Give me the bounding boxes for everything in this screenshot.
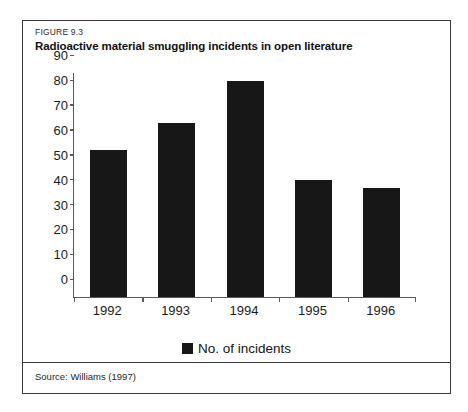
- x-axis-label-1996: 1996: [347, 303, 415, 318]
- x-axis-labels: 1992 1993 1994 1995 1996: [73, 303, 415, 318]
- figure-number-label: FIGURE 9.3: [35, 27, 442, 38]
- bar-slot-1995: [279, 73, 347, 297]
- y-axis-tick-label: 0: [44, 272, 68, 287]
- y-axis-tick-80: 80: [44, 71, 74, 89]
- bars-layer: [74, 73, 416, 297]
- y-axis-tick-label: 90: [44, 48, 68, 63]
- bar-chart: 90 80 70 60 50 40 30 20: [23, 63, 450, 353]
- y-axis-tick-label: 70: [44, 98, 68, 113]
- legend-label-no-of-incidents: No. of incidents: [198, 341, 291, 356]
- figure-header: FIGURE 9.3 Radioactive material smugglin…: [35, 27, 442, 54]
- y-axis-tick-90: 90: [44, 46, 74, 64]
- y-axis-tick-0: 0: [44, 270, 74, 288]
- x-axis-tick: [348, 297, 349, 302]
- y-axis-tick-10: 10: [44, 245, 74, 263]
- bar-1995: [295, 180, 332, 297]
- bar-slot-1992: [74, 73, 142, 297]
- bar-slot-1993: [142, 73, 210, 297]
- bar-slot-1996: [348, 73, 416, 297]
- y-axis-tick-mark: [70, 55, 74, 56]
- legend-square-icon: [182, 343, 193, 354]
- y-axis-tick-label: 60: [44, 123, 68, 138]
- x-axis-tick: [74, 297, 75, 302]
- y-axis-tick-label: 20: [44, 222, 68, 237]
- x-axis-label-1993: 1993: [141, 303, 209, 318]
- y-axis-tick-60: 60: [44, 121, 74, 139]
- x-axis-label-1992: 1992: [73, 303, 141, 318]
- bar-1992: [90, 150, 127, 297]
- x-axis-tick: [415, 297, 416, 302]
- y-axis-tick-30: 30: [44, 195, 74, 213]
- y-axis-tick-20: 20: [44, 220, 74, 238]
- y-axis-tick-70: 70: [44, 96, 74, 114]
- bar-slot-1994: [211, 73, 279, 297]
- source-note: Source: Williams (1997): [35, 371, 136, 382]
- x-axis-tick: [142, 297, 143, 302]
- bar-1993: [158, 123, 195, 297]
- x-axis-label-1994: 1994: [210, 303, 278, 318]
- figure-box: FIGURE 9.3 Radioactive material smugglin…: [22, 20, 451, 394]
- y-axis-tick-label: 80: [44, 73, 68, 88]
- y-axis-tick-label: 10: [44, 247, 68, 262]
- x-axis-tick: [279, 297, 280, 302]
- y-axis-tick-40: 40: [44, 170, 74, 188]
- footer-divider: [23, 362, 450, 363]
- y-axis-tick-label: 40: [44, 173, 68, 188]
- bar-1996: [363, 188, 400, 298]
- bar-1994: [227, 81, 264, 298]
- y-axis-tick-label: 50: [44, 148, 68, 163]
- x-axis-label-1995: 1995: [278, 303, 346, 318]
- y-axis-tick-label: 30: [44, 198, 68, 213]
- plot-area: 90 80 70 60 50 40 30 20: [73, 73, 416, 298]
- x-axis-tick: [211, 297, 212, 302]
- chart-legend: No. of incidents: [23, 341, 450, 356]
- y-axis-tick-50: 50: [44, 146, 74, 164]
- figure-title: Radioactive material smuggling incidents…: [35, 39, 442, 54]
